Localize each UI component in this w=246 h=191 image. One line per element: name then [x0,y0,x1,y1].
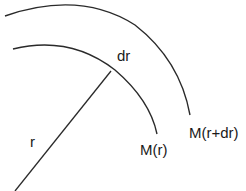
shell-thickness-label: dr [117,48,130,63]
inner-shell-arc [13,45,157,134]
radius-label: r [30,134,35,149]
diagram-graphics [0,0,246,191]
inner-mass-label: M(r) [140,142,167,157]
radius-line [15,71,111,191]
outer-shell-arc [5,5,190,115]
shell-diagram: dr r M(r) M(r+dr) [0,0,246,191]
outer-mass-label: M(r+dr) [189,125,239,140]
